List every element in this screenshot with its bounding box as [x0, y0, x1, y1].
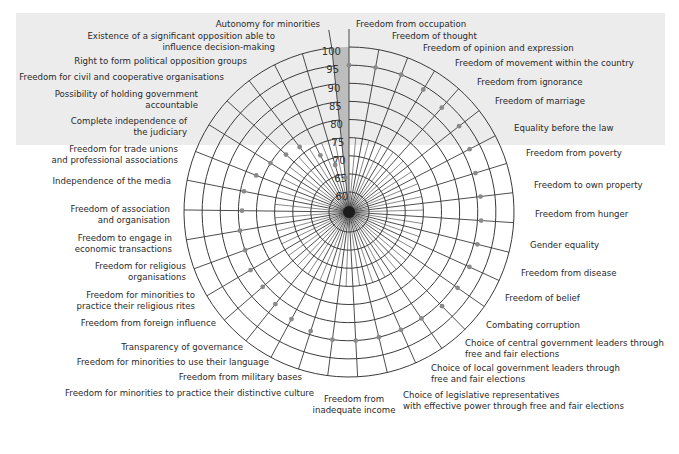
axis-label: Freedom frominadequate income — [309, 394, 399, 415]
axis-spoke — [349, 212, 442, 348]
axis-label: Freedom from occupation — [356, 19, 466, 30]
data-point — [373, 65, 378, 70]
data-point — [333, 163, 338, 168]
data-point — [419, 316, 424, 321]
minor-spoke — [349, 212, 414, 249]
axis-label: Freedom of opinion and expression — [423, 43, 574, 54]
scale-tick-label: 90 — [328, 83, 341, 94]
data-point — [330, 337, 335, 342]
data-point — [318, 153, 323, 158]
axis-spoke — [227, 101, 349, 212]
data-point — [268, 161, 273, 166]
axis-label: Freedom for minorities to practice their… — [65, 388, 314, 399]
data-point — [347, 63, 352, 68]
data-point — [353, 338, 358, 343]
axis-label: Complete independence ofthe judiciary — [71, 116, 187, 137]
data-point — [467, 147, 472, 152]
axis-label: Gender equality — [530, 240, 599, 251]
axis-spoke — [209, 125, 349, 212]
data-point — [240, 208, 245, 213]
axis-label: Choice of central government leaders thr… — [465, 338, 664, 359]
axis-label: Freedom from ignorance — [477, 77, 583, 88]
data-point — [421, 87, 426, 92]
data-point — [475, 242, 480, 247]
data-point — [297, 145, 302, 150]
data-point — [289, 317, 294, 322]
scale-tick-label: 85 — [329, 101, 342, 112]
data-point — [457, 124, 462, 129]
data-point — [399, 327, 404, 332]
center-hub — [343, 206, 355, 218]
data-point — [284, 152, 289, 157]
axis-label: Freedom of movement within the country — [455, 58, 634, 69]
axis-label: Transparency of governance — [121, 342, 243, 353]
scale-tick-label: 75 — [332, 137, 345, 148]
data-point — [376, 335, 381, 340]
data-point — [439, 105, 444, 110]
minor-spoke — [349, 212, 385, 277]
axis-spoke — [349, 212, 387, 373]
axis-label: Freedom from military bases — [179, 372, 302, 383]
axis-label: Possibility of holding governmentaccount… — [55, 89, 198, 110]
leader-line — [329, 30, 332, 48]
axis-label: Independence of the media — [53, 176, 171, 187]
axis-spoke — [187, 180, 349, 212]
axis-label: Freedom from poverty — [526, 148, 622, 159]
data-point — [254, 173, 259, 178]
axis-label: Freedom of marriage — [495, 96, 585, 107]
data-point — [343, 175, 348, 180]
axis-label: Existence of a significant opposition ab… — [87, 31, 275, 52]
axis-label: Freedom of thought — [392, 31, 477, 42]
data-point — [308, 329, 313, 334]
data-point — [478, 194, 483, 199]
axis-label: Right to form political opposition group… — [74, 56, 247, 67]
axis-label: Choice of local government leaders throu… — [431, 363, 620, 384]
axis-label: Freedom of belief — [505, 293, 580, 304]
axis-spoke — [349, 212, 465, 329]
axis-label: Freedom for minorities topractice their … — [77, 290, 195, 311]
minor-spoke — [297, 212, 349, 266]
scale-tick-label: 100 — [322, 46, 341, 57]
axis-spoke — [349, 212, 358, 377]
axis-label: Freedom for civil and cooperative organi… — [19, 72, 224, 83]
data-point — [248, 268, 253, 273]
data-point — [399, 72, 404, 77]
scale-tick-label: 95 — [326, 64, 339, 75]
axis-label: Freedom from hunger — [535, 209, 628, 220]
axis-label: Choice of legislative representativeswit… — [403, 390, 624, 411]
axis-label: Freedom from disease — [521, 268, 616, 279]
axis-spoke — [271, 212, 349, 357]
axis-label: Equality before the law — [514, 123, 613, 134]
axis-label: Freedom for religiousorganisations — [95, 261, 186, 282]
axis-spoke — [298, 212, 349, 369]
axis-label: Combating corruption — [486, 320, 580, 331]
axis-label: Autonomy for minorities — [216, 19, 320, 30]
data-point — [242, 189, 247, 194]
data-point — [455, 285, 460, 290]
axis-label: Freedom to own property — [534, 180, 643, 191]
axis-spoke — [349, 193, 513, 212]
axis-label: Freedom of associationand organisation — [71, 204, 170, 225]
axis-label: Freedom to engage ineconomic transaction… — [75, 233, 172, 254]
data-point — [273, 302, 278, 307]
data-point — [243, 248, 248, 253]
scale-tick-label: 80 — [330, 119, 343, 130]
data-point — [467, 265, 472, 270]
data-point — [260, 284, 265, 289]
scale-tick-label: 60 — [335, 191, 348, 202]
data-point — [473, 171, 478, 176]
axis-label: Freedom for trade unionsand professional… — [52, 144, 179, 165]
data-point — [440, 304, 445, 309]
axis-spoke — [349, 212, 484, 307]
axis-spoke — [184, 210, 349, 212]
data-point — [238, 228, 243, 233]
axis-label: Freedom from foreign influence — [81, 318, 216, 329]
axis-spoke — [349, 212, 514, 223]
data-point — [479, 218, 484, 223]
axis-label: Freedom for minorities to use their lang… — [77, 357, 269, 368]
